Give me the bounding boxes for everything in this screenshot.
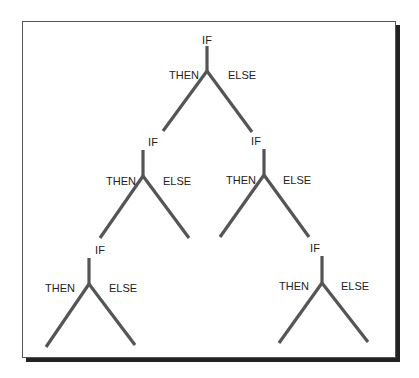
then-label: THEN xyxy=(45,282,75,294)
if-label: IF xyxy=(310,242,320,254)
if-label: IF xyxy=(95,244,105,256)
if-label: IF xyxy=(251,135,261,147)
then-label: THEN xyxy=(226,174,256,186)
else-label: ELSE xyxy=(283,174,311,186)
else-label: ELSE xyxy=(341,280,369,292)
tree-node-bottom-right: IF THEN ELSE xyxy=(279,242,369,343)
tree-node-bottom-left: IF THEN ELSE xyxy=(45,244,137,347)
then-label: THEN xyxy=(279,280,309,292)
if-label: IF xyxy=(148,136,158,148)
else-label: ELSE xyxy=(228,69,256,81)
then-label: THEN xyxy=(169,69,199,81)
else-label: ELSE xyxy=(109,282,137,294)
else-label: ELSE xyxy=(163,175,191,187)
then-label: THEN xyxy=(106,175,136,187)
decision-tree: IF THEN ELSE IF THEN ELSE IF THEN ELSE I… xyxy=(0,0,419,378)
if-label: IF xyxy=(202,34,212,46)
tree-node-mid-left: IF THEN ELSE xyxy=(100,136,191,238)
then-branch xyxy=(279,283,322,343)
tree-node-root: IF THEN ELSE xyxy=(163,34,256,132)
tree-node-mid-right: IF THEN ELSE xyxy=(220,135,311,237)
